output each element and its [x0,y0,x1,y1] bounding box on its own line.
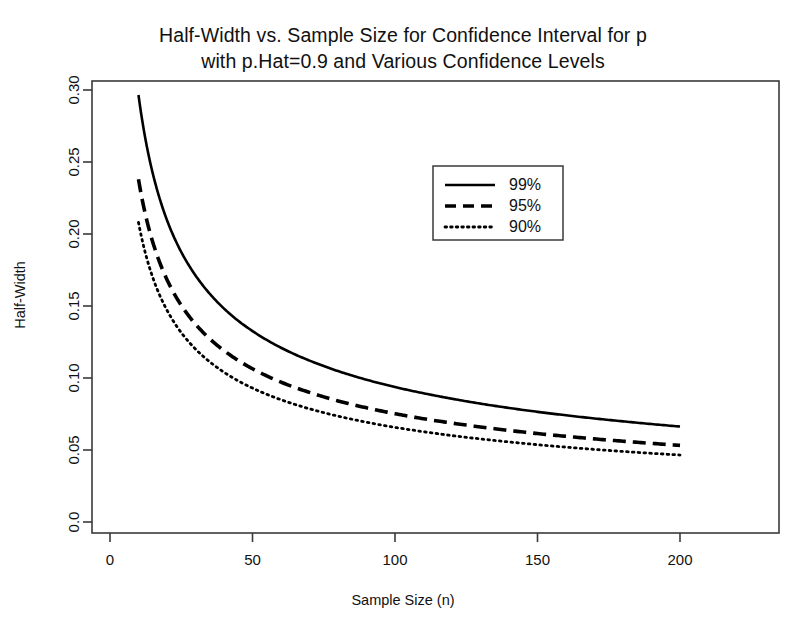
legend-box [433,166,563,240]
x-tick-label: 50 [244,551,261,568]
chart-legend: 99%95%90% [433,166,563,240]
chart-figure: Half-Width vs. Sample Size for Confidenc… [0,0,806,641]
plot-area: 0501001502000.00.050.100.150.200.250.30 … [0,0,806,641]
y-tick-label: 0.30 [65,75,82,104]
plot-border [92,81,779,533]
y-tick-label: 0.05 [65,435,82,464]
y-axis-label: Half-Width [12,235,28,355]
legend-label-95: 95% [509,197,541,214]
legend-label-90: 90% [509,218,541,235]
x-tick-label: 150 [525,551,550,568]
y-tick-label: 0.25 [65,147,82,176]
y-tick-label: 0.20 [65,219,82,248]
x-tick-label: 100 [382,551,407,568]
data-series [139,95,681,455]
x-axis-label: Sample Size (n) [0,592,806,608]
x-tick-label: 0 [106,551,114,568]
y-tick-label: 0.0 [65,512,82,533]
y-tick-label: 0.10 [65,363,82,392]
series-line-95 [139,179,681,445]
y-tick-label: 0.15 [65,291,82,320]
x-tick-label: 200 [667,551,692,568]
series-line-99 [139,95,681,426]
legend-label-99: 99% [509,176,541,193]
